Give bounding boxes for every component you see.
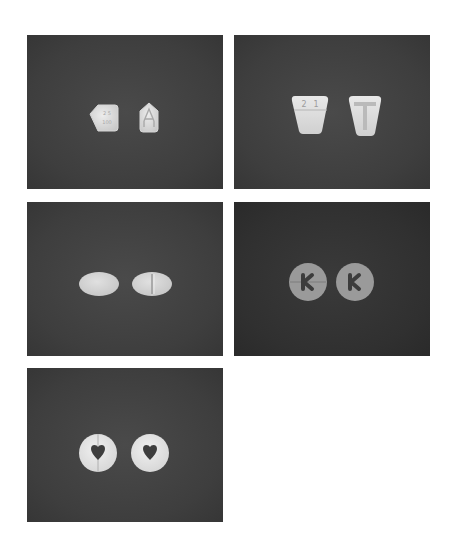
tablet-photo-panel-1: 2 5 100 xyxy=(27,35,223,189)
tablet-pair-round-k xyxy=(234,202,430,356)
tablet-front xyxy=(79,272,119,296)
tablet-pair-pentagon: 2 5 100 xyxy=(27,35,223,189)
svg-text:1: 1 xyxy=(313,100,318,109)
tablet-front xyxy=(292,96,328,134)
tablet-pair-round-heart xyxy=(27,368,223,522)
svg-text:100: 100 xyxy=(102,119,112,125)
tablet-photo-panel-2: 2 1 xyxy=(234,35,430,189)
svg-text:2: 2 xyxy=(301,100,306,109)
tablet-photo-panel-3 xyxy=(27,202,223,356)
tablet-pair-oval xyxy=(27,202,223,356)
tablet-front xyxy=(90,105,118,131)
tablet-photo-panel-5 xyxy=(27,368,223,522)
svg-text:2 5: 2 5 xyxy=(103,110,111,116)
tablet-photo-panel-4 xyxy=(234,202,430,356)
tablet-back xyxy=(336,263,374,301)
tablet-pair-trapezoid: 2 1 xyxy=(234,35,430,189)
